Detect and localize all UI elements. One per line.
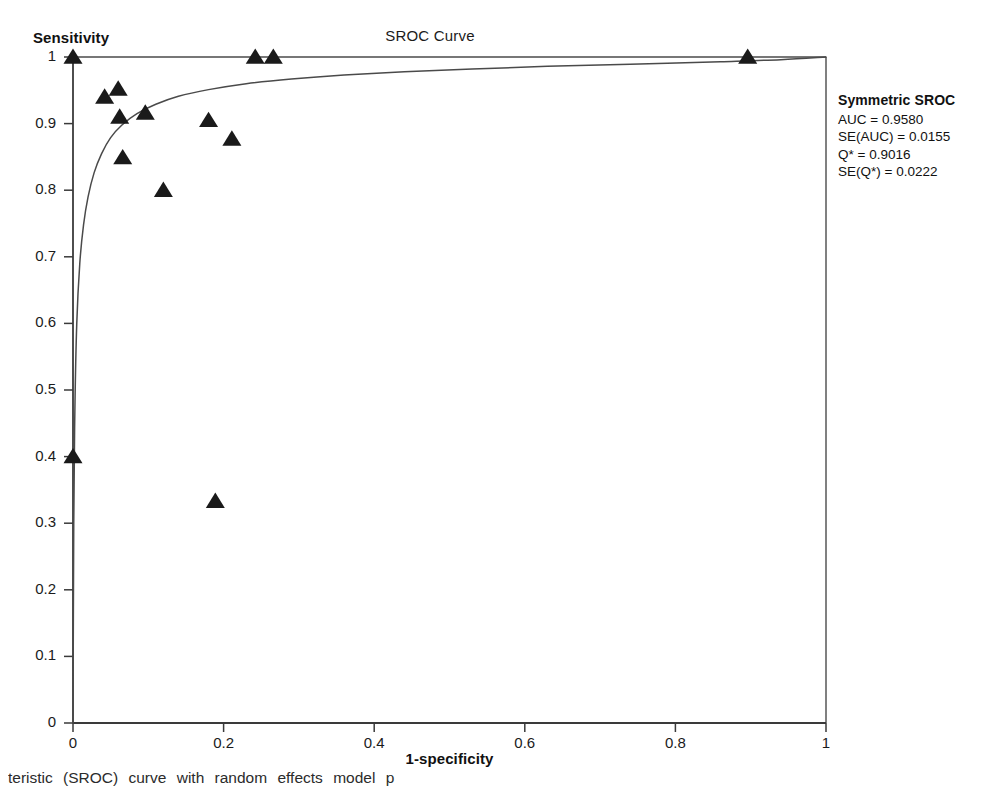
legend-line-se-qstar: SE(Q*) = 0.0222 [838,163,955,181]
statistics-legend: Symmetric SROC AUC = 0.9580 SE(AUC) = 0.… [838,92,955,181]
data-point-triangle [113,149,132,164]
y-tick-label: 0.2 [10,580,56,597]
data-point-triangle [246,48,265,63]
legend-line-qstar: Q* = 0.9016 [838,146,955,164]
legend-line-auc: AUC = 0.9580 [838,111,955,129]
y-tick-label: 0.3 [10,513,56,530]
legend-line-se-auc: SE(AUC) = 0.0155 [838,128,955,146]
axis-frame [73,57,826,723]
data-point-triangle [738,48,757,63]
data-point-triangle [199,112,218,127]
x-axis-title: 1-specificity [73,750,826,767]
data-point-triangle [109,80,128,95]
sroc-figure: Sensitivity SROC Curve 00.10.20.30.40.50… [0,0,992,786]
data-point-triangle [64,48,83,63]
sroc-curve [73,57,826,723]
data-point-triangle [222,130,241,145]
y-tick-label: 0.9 [10,114,56,131]
data-point-triangle [64,448,83,463]
x-tick-label: 0.2 [194,734,254,751]
data-point-triangle [110,108,129,123]
data-point-triangle [206,493,225,508]
x-tick-label: 0.6 [495,734,555,751]
y-axis-ticks [64,57,73,723]
y-tick-label: 0.6 [10,313,56,330]
x-tick-label: 0.4 [344,734,404,751]
x-tick-label: 0.8 [645,734,705,751]
y-tick-label: 1 [10,47,56,64]
data-point-triangle [154,182,173,197]
data-points [64,48,758,508]
x-axis-ticks [73,723,826,732]
y-tick-label: 0 [10,713,56,730]
figure-caption: teristic (SROC) curve with random effect… [8,768,992,786]
x-tick-label: 1 [796,734,856,751]
y-tick-label: 0.5 [10,380,56,397]
y-tick-label: 0.1 [10,646,56,663]
data-point-triangle [95,88,114,103]
data-point-triangle [264,48,283,63]
y-tick-label: 0.4 [10,447,56,464]
legend-title: Symmetric SROC [838,92,955,111]
x-tick-label: 0 [43,734,103,751]
y-tick-label: 0.7 [10,247,56,264]
y-tick-label: 0.8 [10,180,56,197]
